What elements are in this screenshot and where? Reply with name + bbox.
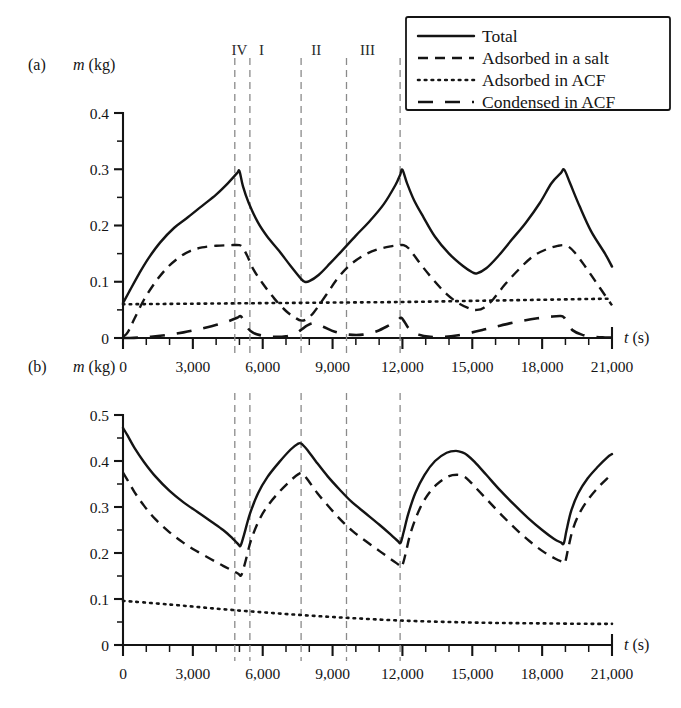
series-a-condensed-in-acf xyxy=(123,316,612,338)
legend-label-1: Adsorbed in a salt xyxy=(482,48,609,68)
y-tick-label-b-3: 0.3 xyxy=(90,499,110,516)
x-tick-label-a-3: 9,000 xyxy=(315,358,350,375)
series-a-adsorbed-in-acf xyxy=(123,299,612,305)
x-tick-label-a-2: 6,000 xyxy=(245,358,280,375)
legend-label-0: Total xyxy=(482,26,518,46)
legend-label-2: Adsorbed in ACF xyxy=(482,70,606,90)
x-tick-label-a-4: 12,000 xyxy=(381,358,424,375)
x-tick-label-b-3: 9,000 xyxy=(315,665,350,682)
y-axis-title-b: m (kg) xyxy=(73,358,115,376)
two-panel-mass-vs-time-figure: (a)m (kg)00.10.20.30.403,0006,0009,00012… xyxy=(0,0,681,708)
y-tick-label-a-3: 0.3 xyxy=(90,161,110,178)
series-a-total xyxy=(123,169,612,303)
x-tick-label-a-5: 15,000 xyxy=(451,358,494,375)
y-tick-label-b-1: 0.1 xyxy=(90,591,109,608)
y-tick-label-a-2: 0.2 xyxy=(90,217,109,234)
legend-label-3: Condensed in ACF xyxy=(482,92,615,112)
x-tick-label-b-2: 6,000 xyxy=(245,665,280,682)
y-tick-label-a-0: 0 xyxy=(101,330,109,347)
x-tick-label-a-6: 18,000 xyxy=(521,358,564,375)
y-tick-label-a-1: 0.1 xyxy=(90,273,109,290)
x-tick-label-b-1: 3,000 xyxy=(175,665,210,682)
y-tick-label-a-4: 0.4 xyxy=(90,105,110,122)
series-b-adsorbed-in-acf xyxy=(123,601,612,624)
x-axis-title-b: t (s) xyxy=(624,636,649,654)
figure-root: (a)m (kg)00.10.20.30.403,0006,0009,00012… xyxy=(0,0,681,708)
region-label-IV: IV xyxy=(232,42,248,58)
panel-label-b: (b) xyxy=(28,358,47,376)
y-tick-label-b-2: 0.2 xyxy=(90,545,109,562)
x-tick-label-b-5: 15,000 xyxy=(451,665,494,682)
x-tick-label-b-4: 12,000 xyxy=(381,665,424,682)
x-tick-label-b-0: 0 xyxy=(119,665,127,682)
series-b-total xyxy=(123,428,612,546)
x-tick-label-b-6: 18,000 xyxy=(521,665,564,682)
x-tick-label-a-0: 0 xyxy=(119,358,127,375)
series-a-adsorbed-in-a-salt xyxy=(123,245,612,337)
x-tick-label-a-1: 3,000 xyxy=(175,358,210,375)
region-label-II: II xyxy=(311,42,321,58)
panel-label-a: (a) xyxy=(28,56,46,74)
x-axis-title-a: t (s) xyxy=(624,329,649,347)
region-label-I: I xyxy=(259,42,264,58)
y-tick-label-b-5: 0.5 xyxy=(90,407,110,424)
region-label-III: III xyxy=(360,42,375,58)
y-axis-title-a: m (kg) xyxy=(73,56,115,74)
y-tick-label-b-0: 0 xyxy=(101,637,109,654)
x-tick-label-a-7: 21,000 xyxy=(591,358,634,375)
x-tick-label-b-7: 21,000 xyxy=(591,665,634,682)
y-tick-label-b-4: 0.4 xyxy=(90,453,110,470)
series-b-adsorbed-in-a-salt xyxy=(123,473,612,576)
